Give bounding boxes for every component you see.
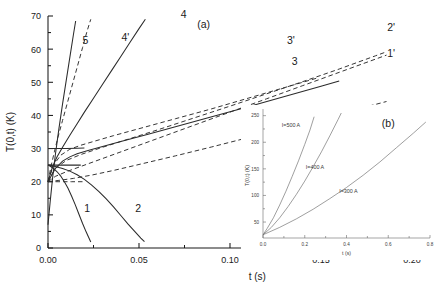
x-tick-label-b: 0.6 xyxy=(385,242,392,247)
curve-label-5: 5 xyxy=(82,34,88,46)
curve-label-2: 2 xyxy=(135,202,141,214)
curve-label-1: 1 xyxy=(84,202,90,214)
y-tick-label-a: 50 xyxy=(31,78,41,88)
y-tick-label-a: 30 xyxy=(31,144,41,154)
curve-label-4p: 4' xyxy=(121,31,129,43)
y-tick-label-a: 10 xyxy=(31,210,41,220)
y-tick-label-a: 0 xyxy=(36,243,41,253)
y-tick-label-a: 70 xyxy=(31,11,41,21)
y-tick-label-b: 150 xyxy=(251,167,259,172)
figure-svg: 0102030405060700.000.050.100.150.20t (s)… xyxy=(0,0,442,305)
y-axis-title-b: T(0,t) (K) xyxy=(244,165,250,186)
curve-2 xyxy=(48,165,144,242)
figure-container: 0102030405060700.000.050.100.150.20t (s)… xyxy=(0,0,442,305)
curve-label-4: 4 xyxy=(181,8,187,20)
inset-label-I-500-A: I=500 A xyxy=(282,122,301,128)
x-tick-label-a: 0.10 xyxy=(221,255,239,265)
x-tick-label-a: 0.05 xyxy=(130,255,148,265)
y-tick-label-b: 200 xyxy=(251,140,259,145)
inset-background xyxy=(241,105,440,260)
x-tick-label-b: 0.8 xyxy=(427,242,434,247)
y-tick-label-b: 100 xyxy=(251,193,259,198)
x-tick-label-b: 0.2 xyxy=(302,242,309,247)
y-tick-label-a: 60 xyxy=(31,45,41,55)
x-axis-title-a: t (s) xyxy=(249,271,266,282)
curve-label-3: 3 xyxy=(292,55,298,67)
x-tick-label-a: 0.00 xyxy=(39,255,57,265)
x-axis-title-b: t (s) xyxy=(342,250,351,256)
y-tick-label-b: 50 xyxy=(254,220,260,225)
curve-label-2p: 2' xyxy=(387,21,395,33)
x-tick-label-b: 0.0 xyxy=(260,242,267,247)
y-tick-label-a: 20 xyxy=(31,177,41,187)
inset-label-I-400-A: I=400 A xyxy=(306,164,325,170)
panel-a-label: (a) xyxy=(197,18,210,30)
curve-upper-flat-solid xyxy=(48,148,84,149)
y-tick-label-b: 250 xyxy=(251,113,259,118)
y-axis-title-a: T(0,t) (K) xyxy=(5,112,16,152)
inset-label-I-300-A: I=300 A xyxy=(339,188,358,194)
x-tick-label-b: 0.4 xyxy=(343,242,350,247)
y-tick-label-a: 40 xyxy=(31,111,41,121)
curve-label-3p: 3' xyxy=(287,34,295,46)
curve-label-1p: 1' xyxy=(387,47,395,59)
panel-b-inset: 501001502002500.00.20.40.60.8t (s)T(0,t)… xyxy=(241,105,440,260)
panel-b-label: (b) xyxy=(382,117,395,129)
